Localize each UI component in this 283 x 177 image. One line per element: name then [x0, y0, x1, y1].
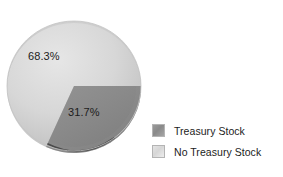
legend-swatch-icon-treasury-stock — [152, 124, 165, 137]
legend-item-treasury-stock[interactable]: Treasury Stock — [152, 120, 280, 141]
pie-graphic: 68.3% 31.7% — [4, 6, 150, 156]
slice-value-label-treasury-stock: 31.7% — [68, 106, 100, 118]
legend-swatch-icon-no-treasury-stock — [152, 145, 165, 158]
pie-svg — [4, 6, 150, 156]
legend-label-no-treasury-stock: No Treasury Stock — [174, 146, 261, 158]
pie-chart-figure: 68.3% 31.7% Treasury Stock No Treasury S… — [0, 0, 283, 177]
legend-label-treasury-stock: Treasury Stock — [174, 125, 245, 137]
chart-legend: Treasury Stock No Treasury Stock — [152, 120, 280, 162]
legend-item-no-treasury-stock[interactable]: No Treasury Stock — [152, 141, 280, 162]
slice-value-label-no-treasury-stock: 68.3% — [28, 50, 60, 62]
